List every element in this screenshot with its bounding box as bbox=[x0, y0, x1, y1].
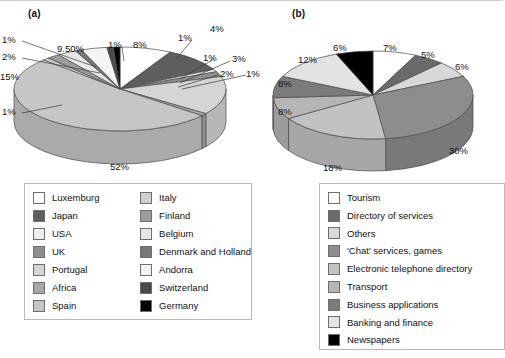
legend-item: Portugal bbox=[33, 261, 136, 279]
pie-value-label: 30% bbox=[449, 146, 468, 156]
legend-item: Business applications bbox=[328, 296, 504, 314]
legend-label: Electronic telephone directory bbox=[347, 264, 472, 274]
legend-label: Switzerland bbox=[159, 283, 208, 293]
legend-item: Italy bbox=[140, 189, 251, 207]
legend-item: 'Chat' services, games bbox=[328, 242, 504, 260]
pie-value-label: 1% bbox=[2, 35, 16, 45]
legend-item: Transport bbox=[328, 278, 504, 296]
legend-item: Luxemburg bbox=[33, 189, 136, 207]
legend-a: LuxemburgJapanUSAUKPortugalAfricaSpain I… bbox=[24, 183, 252, 320]
panel-b: (b) 6%7%5%6%12%8%8%18%30% TourismDirecto… bbox=[251, 1, 502, 358]
pie-chart-b: 6%7%5%6%12%8%8%18%30% bbox=[251, 17, 502, 177]
legend-swatch-icon bbox=[140, 282, 152, 294]
legend-item: Electronic telephone directory bbox=[328, 260, 504, 278]
pie-value-label: 4% bbox=[210, 24, 224, 34]
legend-item: Switzerland bbox=[140, 279, 251, 297]
legend-item: Banking and finance bbox=[328, 313, 504, 331]
legend-swatch-icon bbox=[328, 281, 340, 293]
legend-label: Japan bbox=[52, 211, 78, 221]
legend-swatch-icon bbox=[140, 228, 152, 240]
legend-label: Portugal bbox=[52, 265, 87, 275]
legend-swatch-icon bbox=[33, 282, 45, 294]
legend-swatch-icon bbox=[33, 210, 45, 222]
pie-value-label: 12% bbox=[298, 55, 317, 65]
legend-swatch-icon bbox=[140, 210, 152, 222]
legend-swatch-icon bbox=[328, 245, 340, 257]
pie-chart-a-svg bbox=[0, 17, 251, 177]
pie-value-label: 1% bbox=[108, 40, 122, 50]
pie-value-label: 3% bbox=[232, 54, 246, 64]
legend-swatch-icon bbox=[33, 192, 45, 204]
legend-swatch-icon bbox=[33, 300, 45, 312]
legend-label: Business applications bbox=[347, 300, 438, 310]
legend-swatch-icon bbox=[328, 192, 340, 204]
legend-label: USA bbox=[52, 229, 72, 239]
legend-swatch-icon bbox=[328, 227, 340, 239]
legend-b-column-1: TourismDirectory of servicesOthers'Chat'… bbox=[320, 189, 504, 349]
legend-swatch-icon bbox=[328, 334, 340, 346]
legend-swatch-icon bbox=[328, 263, 340, 275]
legend-label: Directory of services bbox=[347, 211, 433, 221]
legend-swatch-icon bbox=[328, 299, 340, 311]
pie-value-label: 5% bbox=[421, 50, 435, 60]
legend-item: Tourism bbox=[328, 189, 504, 207]
legend-label: Belgium bbox=[159, 229, 193, 239]
legend-item: Belgium bbox=[140, 225, 251, 243]
legend-label: 'Chat' services, games bbox=[347, 246, 442, 256]
pie-value-label: 9.50% bbox=[57, 44, 84, 54]
legend-swatch-icon bbox=[328, 210, 340, 222]
pie-value-label: 52% bbox=[110, 162, 129, 172]
pie-value-label: 1% bbox=[2, 107, 16, 117]
legend-label: Africa bbox=[52, 283, 76, 293]
pie-value-label: 8% bbox=[133, 40, 147, 50]
pie-value-label: 1% bbox=[203, 53, 217, 63]
pie-value-label: 15% bbox=[0, 72, 19, 82]
legend-label: Finland bbox=[159, 211, 190, 221]
pie-value-label: 8% bbox=[278, 79, 292, 89]
legend-b: TourismDirectory of servicesOthers'Chat'… bbox=[319, 183, 505, 350]
pie-chart-a: 1%2%15%1%9.50%1%8%1%4%1%3%2%1%52% bbox=[0, 17, 251, 177]
legend-swatch-icon bbox=[33, 228, 45, 240]
pie-value-label: 7% bbox=[383, 43, 397, 53]
legend-label: Transport bbox=[347, 282, 387, 292]
legend-label: Luxemburg bbox=[52, 193, 100, 203]
legend-swatch-icon bbox=[328, 316, 340, 328]
pie-top-faces bbox=[14, 47, 226, 131]
legend-label: Others bbox=[347, 229, 376, 239]
legend-item: Finland bbox=[140, 207, 251, 225]
legend-item: Others bbox=[328, 225, 504, 243]
pie-value-label: 8% bbox=[278, 107, 292, 117]
pie-value-label: 18% bbox=[323, 163, 342, 173]
legend-swatch-icon bbox=[140, 300, 152, 312]
legend-swatch-icon bbox=[33, 264, 45, 276]
legend-label: Spain bbox=[52, 301, 76, 311]
pie-value-label: 6% bbox=[333, 43, 347, 53]
legend-label: Banking and finance bbox=[347, 318, 433, 328]
legend-label: Tourism bbox=[347, 193, 380, 203]
legend-item: Newspapers bbox=[328, 331, 504, 349]
legend-swatch-icon bbox=[140, 192, 152, 204]
legend-label: Germany bbox=[159, 301, 198, 311]
legend-a-column-1: LuxemburgJapanUSAUKPortugalAfricaSpain bbox=[25, 189, 136, 319]
pie-slice-side bbox=[202, 114, 206, 149]
legend-item: Africa bbox=[33, 279, 136, 297]
legend-label: Newspapers bbox=[347, 335, 400, 345]
legend-swatch-icon bbox=[140, 246, 152, 258]
pie-value-label: 6% bbox=[455, 62, 469, 72]
legend-item: Denmark and Holland bbox=[140, 243, 251, 261]
pie-value-label: 2% bbox=[220, 69, 234, 79]
legend-swatch-icon bbox=[33, 246, 45, 258]
legend-a-column-2: ItalyFinlandBelgiumDenmark and HollandAn… bbox=[136, 189, 251, 319]
panel-a: (a) 1%2%15%1%9.50%1%8%1%4%1%3%2%1%52% Lu… bbox=[0, 1, 251, 358]
legend-item: Andorra bbox=[140, 261, 251, 279]
pie-value-label: 2% bbox=[2, 52, 16, 62]
legend-label: Andorra bbox=[159, 265, 193, 275]
legend-item: Germany bbox=[140, 297, 251, 315]
legend-label: Italy bbox=[159, 193, 176, 203]
legend-item: Spain bbox=[33, 297, 136, 315]
pie-value-label: 1% bbox=[178, 33, 192, 43]
legend-item: USA bbox=[33, 225, 136, 243]
legend-item: UK bbox=[33, 243, 136, 261]
legend-label: UK bbox=[52, 247, 65, 257]
